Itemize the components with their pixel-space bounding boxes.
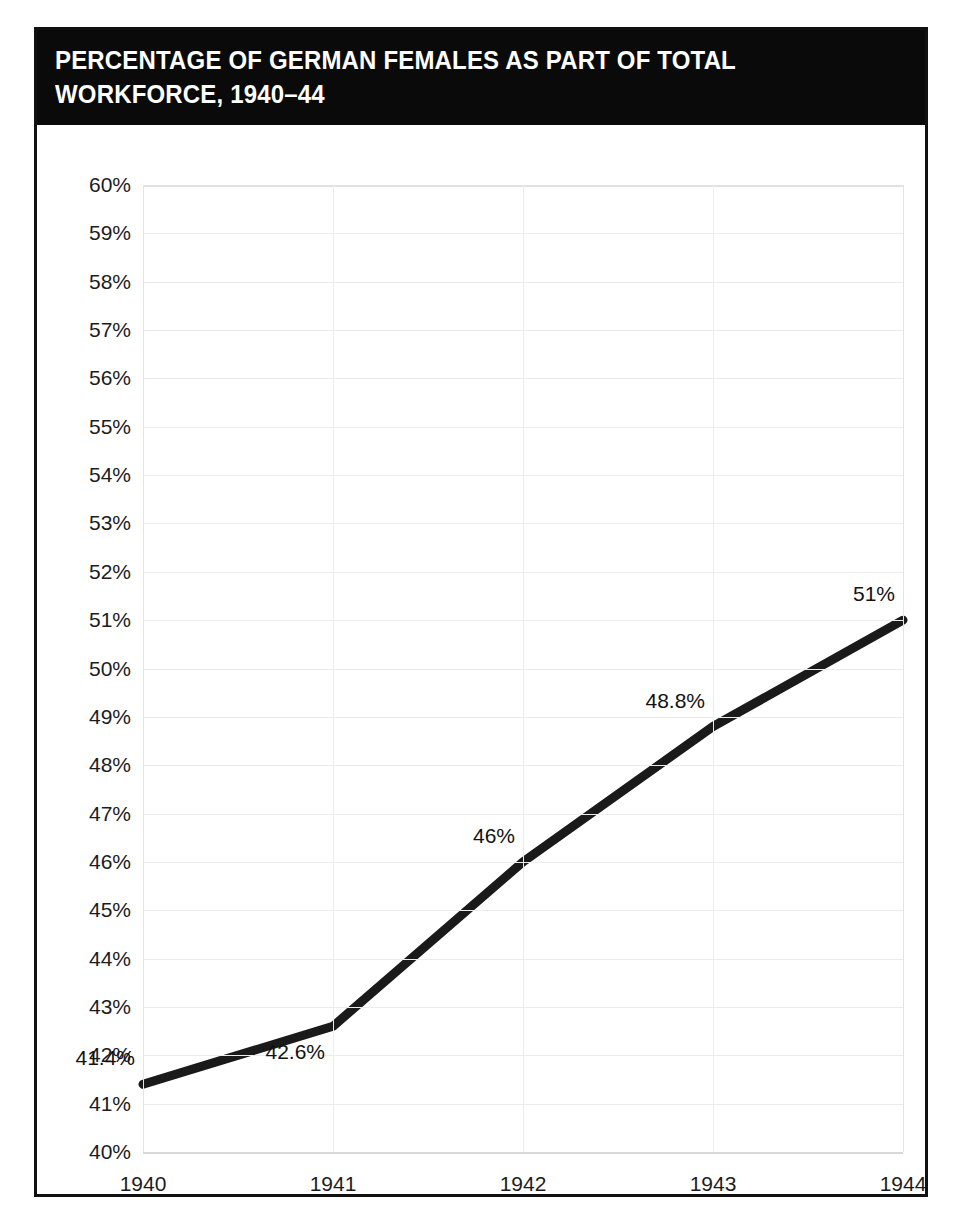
y-axis-tick-label: 45% — [89, 898, 131, 922]
y-axis-tick-label: 55% — [89, 415, 131, 439]
gridline-vertical — [523, 185, 524, 1152]
plot-area: 60%59%58%57%56%55%54%53%52%51%50%49%48%4… — [143, 185, 903, 1152]
y-axis-tick-label: 58% — [89, 270, 131, 294]
y-axis-tick-label: 44% — [89, 947, 131, 971]
x-axis-tick-label: 1943 — [690, 1172, 737, 1196]
y-axis-tick-label: 40% — [89, 1140, 131, 1164]
y-axis-tick-label: 47% — [89, 802, 131, 826]
x-axis-tick-label: 1944 — [880, 1172, 927, 1196]
y-axis-tick-label: 51% — [89, 608, 131, 632]
y-axis-tick-label: 53% — [89, 511, 131, 535]
y-axis-tick-label: 46% — [89, 850, 131, 874]
chart-page: PERCENTAGE OF GERMAN FEMALES AS PART OF … — [0, 0, 953, 1219]
chart-plot-container: 60%59%58%57%56%55%54%53%52%51%50%49%48%4… — [37, 125, 925, 1194]
y-axis-tick-label: 41% — [89, 1092, 131, 1116]
y-axis-tick-label: 50% — [89, 657, 131, 681]
gridline-vertical — [143, 185, 144, 1152]
x-axis-tick-label: 1940 — [120, 1172, 167, 1196]
data-point-label: 51% — [853, 582, 895, 606]
page-title: PERCENTAGE OF GERMAN FEMALES AS PART OF … — [55, 44, 856, 111]
data-point-label: 46% — [473, 824, 515, 848]
y-axis-tick-label: 59% — [89, 221, 131, 245]
gridline-vertical — [333, 185, 334, 1152]
y-axis-tick-label: 60% — [89, 173, 131, 197]
y-axis-tick-label: 54% — [89, 463, 131, 487]
gridline-horizontal — [143, 1152, 903, 1154]
y-axis-tick-label: 57% — [89, 318, 131, 342]
y-axis-tick-label: 48% — [89, 753, 131, 777]
data-point-label: 41.4% — [75, 1046, 135, 1070]
x-axis-tick-label: 1941 — [310, 1172, 357, 1196]
gridline-vertical — [903, 185, 904, 1152]
chart-title-bar: PERCENTAGE OF GERMAN FEMALES AS PART OF … — [37, 30, 925, 125]
y-axis-tick-label: 56% — [89, 366, 131, 390]
chart-card: PERCENTAGE OF GERMAN FEMALES AS PART OF … — [34, 27, 928, 1197]
y-axis-tick-label: 52% — [89, 560, 131, 584]
y-axis-tick-label: 43% — [89, 995, 131, 1019]
y-axis-tick-label: 49% — [89, 705, 131, 729]
x-axis-tick-label: 1942 — [500, 1172, 547, 1196]
data-point-label: 42.6% — [265, 1040, 325, 1064]
data-point-label: 48.8% — [645, 689, 705, 713]
gridline-vertical — [713, 185, 714, 1152]
